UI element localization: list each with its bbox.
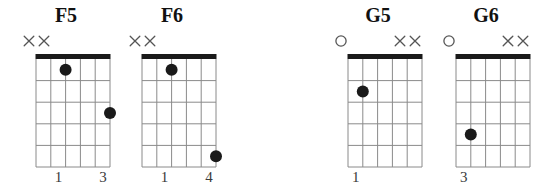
fretboard-grid[interactable] <box>29 53 103 166</box>
mute-x-icon <box>408 34 422 48</box>
chord-diagram-g5[interactable]: G51 <box>330 0 426 193</box>
finger-number: 4 <box>201 168 217 186</box>
open-mute-markers <box>124 34 220 52</box>
mute-x-icon <box>128 34 142 48</box>
chord-title: F5 <box>18 3 114 27</box>
finger-number: 1 <box>51 168 67 186</box>
finger-number: 3 <box>95 168 111 186</box>
chord-title: G5 <box>330 3 426 27</box>
finger-numbers: 3 <box>438 168 534 190</box>
mute-x-icon <box>143 34 157 48</box>
open-mute-markers <box>330 34 426 52</box>
chord-chart: F513F614G51G63 <box>0 0 551 193</box>
fretboard-grid[interactable] <box>341 53 415 166</box>
mute-x-icon <box>501 34 515 48</box>
finger-number: 3 <box>456 168 472 186</box>
open-string-circle-icon <box>334 34 348 48</box>
fretboard-grid[interactable] <box>135 53 209 166</box>
mute-x-icon <box>393 34 407 48</box>
finger-number: 1 <box>157 168 173 186</box>
mute-x-icon <box>37 34 51 48</box>
finger-number: 1 <box>348 168 364 186</box>
open-mute-markers <box>18 34 114 52</box>
finger-numbers: 1 <box>330 168 426 190</box>
chord-title: G6 <box>438 3 534 27</box>
chord-diagram-f5[interactable]: F513 <box>18 0 114 193</box>
open-mute-markers <box>438 34 534 52</box>
open-string-circle-icon <box>442 34 456 48</box>
chord-diagram-f6[interactable]: F614 <box>124 0 220 193</box>
finger-numbers: 13 <box>18 168 114 190</box>
mute-x-icon <box>22 34 36 48</box>
finger-numbers: 14 <box>124 168 220 190</box>
fretboard-grid[interactable] <box>449 53 523 166</box>
chord-diagram-g6[interactable]: G63 <box>438 0 534 193</box>
mute-x-icon <box>516 34 530 48</box>
chord-title: F6 <box>124 3 220 27</box>
